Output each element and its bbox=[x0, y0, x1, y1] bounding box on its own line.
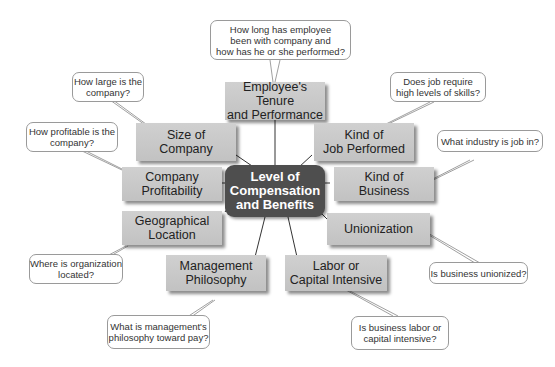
bubble-text: located? bbox=[58, 269, 94, 280]
bubble-text: How long has employee bbox=[230, 24, 331, 35]
question-bubble-size: How large is the company? bbox=[72, 72, 144, 102]
question-bubble-geography: Where is organization located? bbox=[29, 254, 123, 284]
factor-label: Capital Intensive bbox=[290, 273, 382, 287]
factor-box-profitability: Company Profitability bbox=[122, 167, 222, 201]
factor-label: Kind of bbox=[345, 128, 384, 142]
factor-label: Philosophy bbox=[185, 273, 246, 287]
question-bubble-union: Is business unionized? bbox=[429, 262, 528, 284]
bubble-text: Is business labor or bbox=[359, 322, 441, 333]
question-bubble-management: What is management's philosophy toward p… bbox=[107, 315, 210, 349]
factor-label: Job Performed bbox=[323, 142, 405, 156]
question-bubble-labor: Is business labor or capital intensive? bbox=[351, 316, 449, 350]
center-label: and Benefits bbox=[236, 198, 314, 212]
bubble-text: high levels of skills? bbox=[396, 87, 480, 98]
bubble-text: Does job require bbox=[403, 76, 473, 87]
factor-box-labor: Labor or Capital Intensive bbox=[285, 255, 387, 291]
question-bubble-tenure: How long has employee been with company … bbox=[210, 20, 351, 60]
factor-label: Company bbox=[145, 170, 199, 184]
question-bubble-profitability: How profitable is the company? bbox=[26, 122, 118, 152]
factor-box-job: Kind of Job Performed bbox=[314, 123, 414, 161]
factor-box-tenure: Employee's Tenure and Performance bbox=[225, 82, 325, 120]
center-node-compensation: Level of Compensation and Benefits bbox=[225, 165, 325, 217]
bubble-text: What industry is job in? bbox=[441, 136, 539, 147]
bubble-text: Where is organization bbox=[30, 258, 122, 269]
factor-box-geography: Geographical Location bbox=[122, 211, 222, 245]
bubble-text: How profitable is the bbox=[29, 126, 115, 137]
factor-label: Employee's Tenure bbox=[225, 80, 325, 108]
bubble-text: How large is the bbox=[74, 76, 142, 87]
factor-label: Unionization bbox=[344, 222, 413, 236]
question-bubble-business: What industry is job in? bbox=[437, 130, 543, 152]
factor-label: Profitability bbox=[141, 184, 202, 198]
factor-label: Size of bbox=[167, 128, 205, 142]
factor-label: Location bbox=[148, 228, 195, 242]
factor-label: Labor or bbox=[313, 259, 360, 273]
bubble-text: Is business unionized? bbox=[430, 268, 526, 279]
factor-label: Geographical bbox=[135, 214, 209, 228]
factor-label: Management bbox=[180, 259, 253, 273]
factor-label: and Performance bbox=[227, 108, 323, 122]
bubble-text: company? bbox=[86, 87, 130, 98]
factor-box-size: Size of Company bbox=[136, 123, 236, 161]
factor-label: Kind of bbox=[365, 170, 404, 184]
bubble-text: capital intensive? bbox=[364, 333, 437, 344]
bubble-text: philosophy toward pay? bbox=[109, 332, 209, 343]
factor-box-business: Kind of Business bbox=[334, 167, 434, 201]
bubble-text: company? bbox=[50, 137, 94, 148]
bubble-text: how has he or she performed? bbox=[216, 46, 345, 57]
bubble-text: been with company and bbox=[230, 35, 330, 46]
center-label: Compensation bbox=[230, 184, 320, 198]
question-bubble-job: Does job require high levels of skills? bbox=[390, 72, 486, 102]
factor-label: Company bbox=[159, 142, 213, 156]
factor-box-management: Management Philosophy bbox=[166, 255, 266, 291]
factor-box-union: Unionization bbox=[327, 213, 430, 245]
bubble-text: What is management's bbox=[110, 321, 206, 332]
center-label: Level of bbox=[250, 170, 299, 184]
factor-label: Business bbox=[359, 184, 410, 198]
